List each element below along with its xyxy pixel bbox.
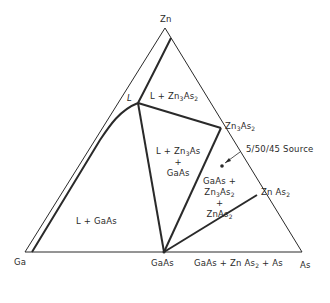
compound-label-gaas: GaAs [151,259,174,268]
region-label-gaas-znas2-as: GaAs + Zn As2 + As [194,259,283,268]
vertex-label-zn: Zn [160,15,172,24]
vertex-label-ga: Ga [14,258,26,267]
region-label-l-gaas: L + GaAs [76,217,117,226]
source-arrowhead [225,158,231,163]
point-label-liquid: L [127,94,132,103]
region-label-l-zn3as-gaas: L + Zn3As + GaAs [156,146,200,179]
source-point [220,164,224,168]
point-label-source: 5/50/45 Source [246,145,313,154]
vertex-label-as: As [300,261,311,270]
compound-label-znas2: Zn As2 [261,188,290,197]
region-label-gaas-zn3as2-znas2: GaAs + Zn3As2 + ZnAs2 [203,176,236,220]
tie-line-l-zn3as2 [138,103,221,128]
compound-label-zn3as2: Zn3As2 [225,122,255,131]
region-label-l-zn3as2: LL + Zn3As2 [150,92,198,101]
outer-triangle [25,28,302,252]
gaas-point [163,251,166,254]
